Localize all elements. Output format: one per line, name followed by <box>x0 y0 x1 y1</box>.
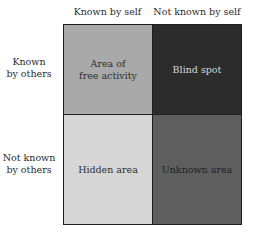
row-header-line1: Known <box>0 56 58 68</box>
row-header-line1: Not known <box>0 152 58 164</box>
cell-label-line1: Area of <box>79 58 137 70</box>
cell-label-line2: free activity <box>79 70 137 82</box>
row-header-not-known-by-others: Not known by others <box>0 152 58 176</box>
cell-blind-spot: Blind spot <box>153 25 241 115</box>
cell-unknown-area: Unknown area <box>153 115 241 224</box>
cell-label: Unknown area <box>162 164 232 176</box>
row-header-line2: by others <box>0 68 58 80</box>
cell-label: Hidden area <box>78 164 138 176</box>
column-header-known-by-self: Known by self <box>63 6 152 17</box>
cell-label: Blind spot <box>173 64 222 76</box>
column-header-not-known-by-self: Not known by self <box>152 6 242 17</box>
row-header-line2: by others <box>0 164 58 176</box>
row-header-known-by-others: Known by others <box>0 56 58 80</box>
cell-area-of-free-activity: Area of free activity <box>64 25 153 115</box>
cell-hidden-area: Hidden area <box>64 115 153 224</box>
johari-window-grid: Area of free activity Blind spot Hidden … <box>63 24 242 225</box>
